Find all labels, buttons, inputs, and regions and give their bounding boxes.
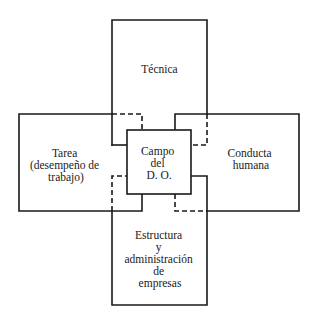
- label-estructura: Estructura y administración de empresas: [124, 229, 195, 290]
- do-field-diagram: Técnica Tarea (desempeño de trabajo) Con…: [0, 0, 316, 321]
- label-conducta-humana: Conducta humana: [228, 147, 275, 171]
- label-tecnica: Técnica: [141, 63, 177, 75]
- box-tecnica: [112, 20, 207, 145]
- label-tarea: Tarea (desempeño de trabajo): [30, 147, 102, 184]
